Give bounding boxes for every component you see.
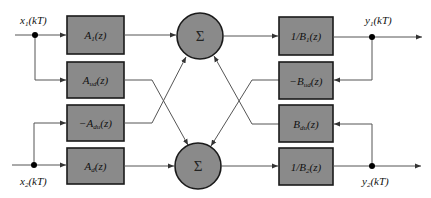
- wire-x1-to-Aud: [35, 35, 66, 80]
- block-Bdu-label: Bdu(z): [293, 118, 319, 132]
- junction-dot-y1: [369, 34, 375, 40]
- block-Aud: Aud(z): [67, 62, 124, 98]
- input-x2: x2(kT): [12, 123, 66, 189]
- output-y1-label: y1(kT): [364, 14, 392, 28]
- wire-y2-feedback-to-Bdu: [334, 124, 372, 166]
- input-x1-label: x1(kT): [19, 14, 47, 28]
- wire-Bdu-to-sum-top: [214, 56, 279, 124]
- wire-y1-feedback-to-Bud: [334, 37, 372, 80]
- wire-Bud-to-sum-bottom: [211, 80, 279, 146]
- output-y2-label: y2(kT): [361, 175, 389, 189]
- sigma-symbol-bottom: Σ: [194, 158, 203, 174]
- wire-Adu-to-sum-top: [124, 57, 186, 123]
- block-Bud: −Bud(z): [279, 62, 333, 99]
- junction-dot-y2: [369, 163, 375, 169]
- input-x1: x1(kT): [15, 14, 66, 80]
- block-Adu: −Adu(z): [67, 105, 124, 141]
- wire-x2-to-Adu: [34, 123, 66, 165]
- block-A1: A1(z): [67, 16, 124, 54]
- block-diagram: x1(kT) x2(kT) A1(z) Aud(z) −Adu(z) Ad(z)…: [0, 0, 431, 198]
- junction-dot-x1: [32, 32, 38, 38]
- block-Ad-label: Ad(z): [84, 160, 107, 174]
- block-Bdu: Bdu(z): [279, 105, 333, 142]
- wire-Aud-to-sum-bottom: [124, 80, 188, 145]
- block-invB1: 1/B1(z): [279, 17, 333, 55]
- block-invB2: 1/B2(z): [279, 148, 333, 185]
- block-Ad: Ad(z): [67, 148, 124, 184]
- input-x2-label: x2(kT): [19, 175, 47, 189]
- block-A1-label: A1(z): [84, 29, 107, 43]
- output-y2: y2(kT): [333, 124, 421, 189]
- junction-dot-x2: [31, 162, 37, 168]
- summer-top: Σ: [177, 13, 223, 59]
- output-y1: y1(kT): [333, 14, 422, 80]
- summer-bottom: Σ: [175, 143, 221, 189]
- sigma-symbol-top: Σ: [196, 28, 205, 44]
